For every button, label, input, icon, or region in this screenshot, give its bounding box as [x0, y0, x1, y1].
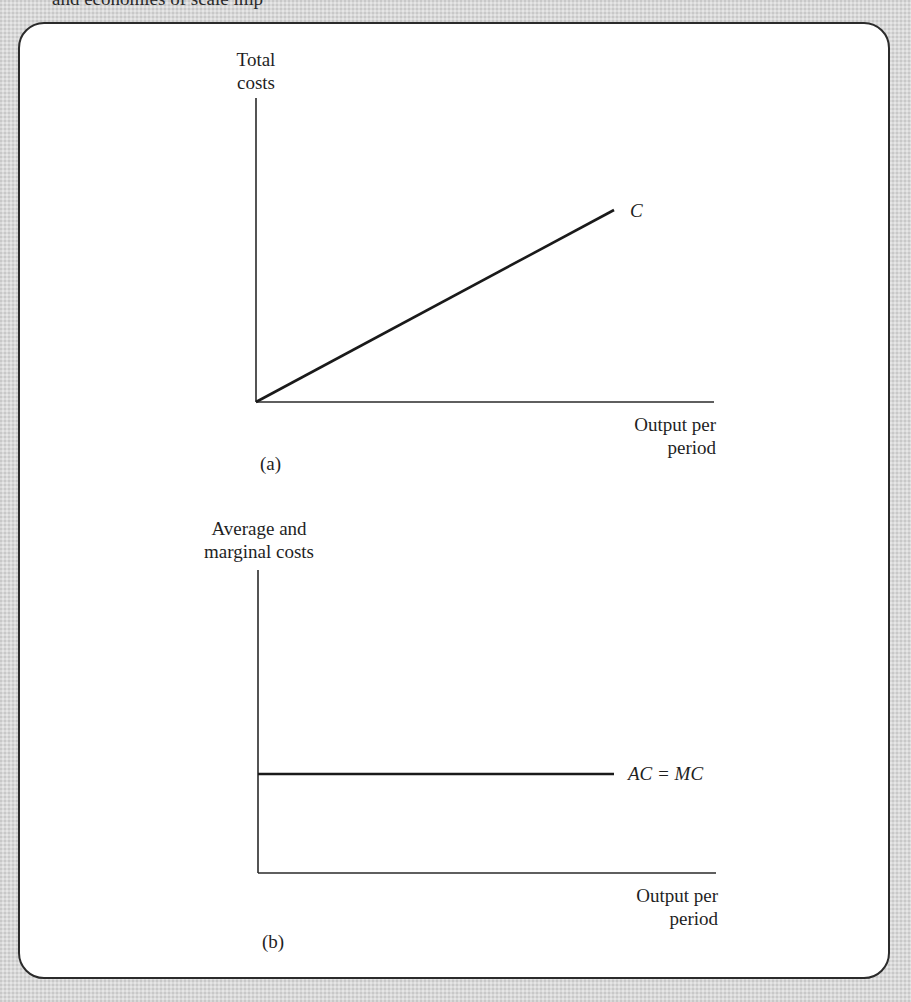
panel-a-curve-label: C [630, 199, 643, 222]
panel-a-total-cost-line [256, 210, 614, 402]
panel-a-x-label-line1: Output per [580, 413, 716, 436]
panel-b-curve-label: AC = MC [628, 762, 703, 785]
panel-b-y-label-line2: marginal costs [168, 540, 350, 563]
panel-b-y-label-line1: Average and [168, 517, 350, 540]
panel-a-y-label-line1: Total [216, 48, 296, 71]
panel-a-y-axis-label: Total costs [216, 48, 296, 94]
panel-b-tag: (b) [262, 930, 284, 953]
figure-svg [0, 0, 911, 1002]
panel-b-x-label-line2: period [580, 907, 718, 930]
panel-a-x-label-line2: period [580, 436, 716, 459]
panel-b-y-axis-label: Average and marginal costs [168, 517, 350, 563]
panel-a-y-label-line2: costs [216, 71, 296, 94]
panel-b-axes [258, 570, 716, 873]
panel-b-x-axis-label: Output per period [580, 884, 718, 930]
panel-a-axes [256, 98, 714, 402]
panel-a-x-axis-label: Output per period [580, 413, 716, 459]
panel-b-x-label-line1: Output per [580, 884, 718, 907]
panel-a-tag: (a) [260, 452, 281, 475]
